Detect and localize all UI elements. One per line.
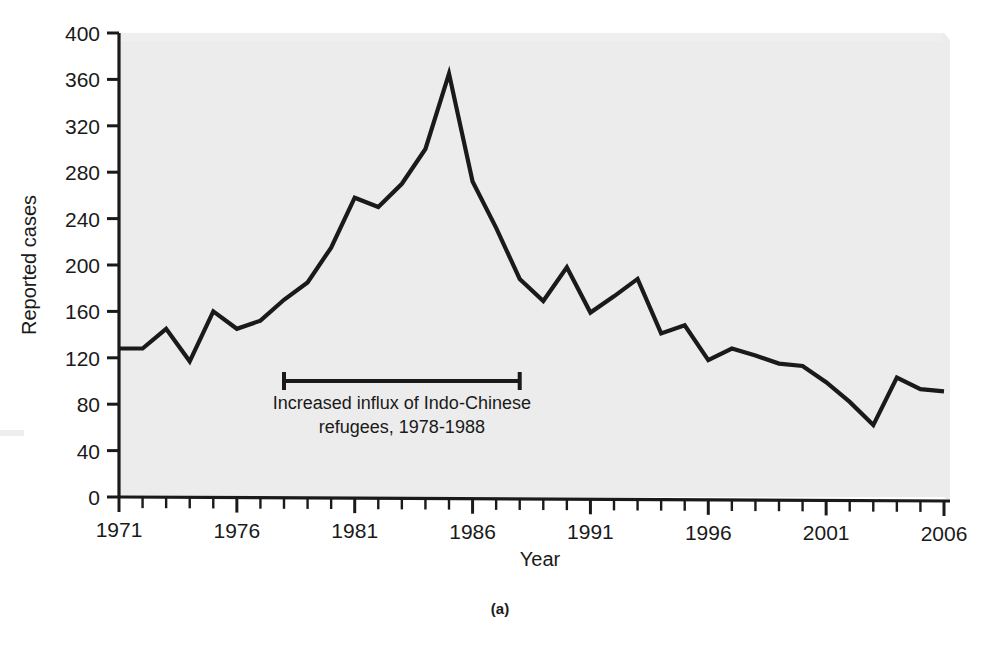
panel-label: (a) [491,600,509,617]
x-tick-label: 1981 [331,519,378,542]
y-tick-label: 200 [65,254,100,277]
annotation-line-1: Increased influx of Indo-Chinese [273,393,531,413]
y-tick-label: 0 [88,486,100,509]
plot-area-background [119,33,950,503]
x-tick-label: 1971 [96,518,143,541]
y-tick-label: 400 [65,22,100,45]
x-tick-label: 1996 [685,521,732,544]
x-tick-label: 2001 [803,521,850,544]
x-axis-title: Year [520,548,561,570]
y-axis-title: Reported cases [18,195,40,335]
x-tick-label: 1991 [567,520,614,543]
y-tick-label: 360 [65,68,100,91]
scan-artifact [0,430,24,436]
y-tick-label: 80 [77,393,100,416]
line-chart: 0408012016020024028032036040019711976198… [0,0,996,649]
annotation-line-2: refugees, 1978-1988 [319,417,485,437]
y-tick-label: 320 [65,115,100,138]
y-tick-label: 40 [77,440,100,463]
y-tick-label: 280 [65,161,100,184]
figure-panel-a: 0408012016020024028032036040019711976198… [0,0,996,649]
y-tick-label: 240 [65,208,100,231]
y-tick-label: 160 [65,300,100,323]
x-tick-label: 1976 [213,519,260,542]
x-tick-label: 2006 [921,522,968,545]
y-tick-label: 120 [65,347,100,370]
x-tick-label: 1986 [449,520,496,543]
